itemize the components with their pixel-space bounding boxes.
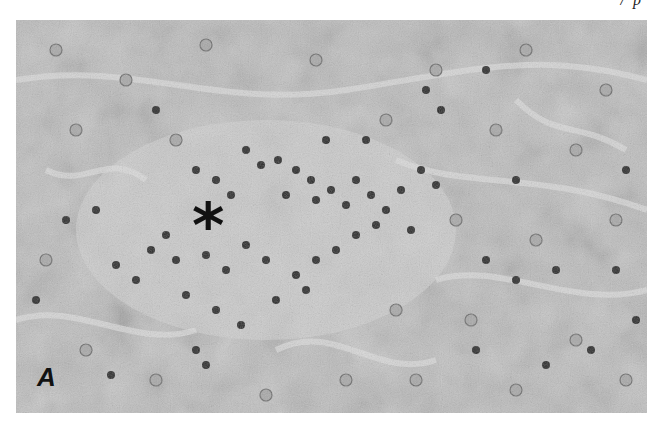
header-text-fragment: / p — [621, 0, 643, 9]
micrograph-image — [16, 20, 647, 413]
panel-label: A — [37, 362, 56, 393]
histology-micrograph: A * — [16, 20, 647, 413]
asterisk-marker: * — [192, 195, 224, 257]
